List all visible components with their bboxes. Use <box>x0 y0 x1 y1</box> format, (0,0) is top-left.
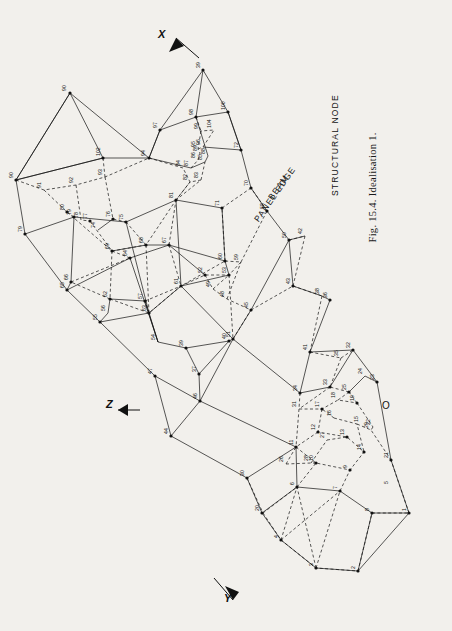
svg-text:15: 15 <box>353 416 359 422</box>
svg-text:60: 60 <box>217 253 223 259</box>
svg-text:19: 19 <box>349 395 355 401</box>
svg-text:80: 80 <box>59 204 65 210</box>
svg-text:38: 38 <box>314 288 320 294</box>
svg-text:48: 48 <box>219 291 225 297</box>
svg-text:102: 102 <box>95 147 101 156</box>
svg-text:1: 1 <box>401 508 407 511</box>
svg-text:104: 104 <box>206 119 212 128</box>
svg-text:4: 4 <box>273 535 279 538</box>
svg-text:93: 93 <box>97 169 103 175</box>
svg-text:55: 55 <box>92 314 98 320</box>
svg-text:39: 39 <box>178 340 184 346</box>
svg-text:78: 78 <box>73 212 79 218</box>
svg-text:36: 36 <box>322 292 328 298</box>
svg-text:42: 42 <box>297 228 303 234</box>
svg-text:33: 33 <box>322 379 328 385</box>
svg-text:87: 87 <box>183 160 189 166</box>
svg-text:70: 70 <box>243 180 249 186</box>
svg-text:57: 57 <box>137 293 143 299</box>
svg-text:62: 62 <box>102 291 108 297</box>
svg-text:68: 68 <box>138 237 144 243</box>
svg-text:81: 81 <box>168 192 174 198</box>
svg-text:100: 100 <box>220 101 226 110</box>
node-number-labels: 90 90 102 94 39 100 98 97 72 79 79 75 81… <box>8 62 407 569</box>
svg-text:18: 18 <box>330 392 336 398</box>
svg-text:91: 91 <box>36 182 42 188</box>
axis-arrows <box>118 38 239 600</box>
svg-text:99: 99 <box>193 123 199 129</box>
svg-text:9: 9 <box>342 465 348 468</box>
svg-text:20: 20 <box>254 505 260 511</box>
svg-text:64: 64 <box>122 250 128 256</box>
svg-text:43: 43 <box>285 278 291 284</box>
svg-text:74: 74 <box>90 222 96 228</box>
svg-text:37: 37 <box>191 366 197 372</box>
svg-text:30: 30 <box>239 470 245 476</box>
svg-text:6: 6 <box>289 482 295 485</box>
svg-text:83: 83 <box>193 172 199 178</box>
svg-text:13: 13 <box>339 429 345 435</box>
svg-text:79: 79 <box>66 209 72 215</box>
svg-text:31: 31 <box>291 401 297 407</box>
svg-text:11: 11 <box>288 440 294 445</box>
svg-text:25: 25 <box>341 384 347 390</box>
svg-text:89: 89 <box>192 145 198 151</box>
solid-members <box>16 70 409 571</box>
figure-caption-text: Fig. 15.4. Idealisation 1. <box>367 132 378 242</box>
svg-text:12: 12 <box>310 424 316 430</box>
axis-label-z: Z <box>106 398 113 410</box>
svg-text:76: 76 <box>105 211 111 217</box>
svg-text:66: 66 <box>63 274 69 280</box>
svg-text:34: 34 <box>292 385 298 391</box>
svg-text:44: 44 <box>163 428 169 434</box>
svg-text:21: 21 <box>383 452 389 458</box>
svg-text:59: 59 <box>233 254 239 260</box>
svg-text:90: 90 <box>8 172 14 178</box>
svg-text:52: 52 <box>197 267 203 273</box>
svg-text:40: 40 <box>221 333 227 339</box>
svg-text:50: 50 <box>281 232 287 238</box>
svg-text:63: 63 <box>141 305 147 311</box>
idealisation-diagram: 90 90 102 94 39 100 98 97 72 79 79 75 81… <box>0 0 452 631</box>
svg-text:56: 56 <box>100 305 106 311</box>
svg-text:8: 8 <box>364 508 370 511</box>
figure-caption: Fig. 15.4. Idealisation 1. <box>366 227 379 243</box>
svg-text:53: 53 <box>221 267 227 273</box>
svg-text:72: 72 <box>233 142 239 148</box>
svg-text:86: 86 <box>190 152 196 158</box>
svg-text:75: 75 <box>118 214 124 220</box>
svg-text:17: 17 <box>314 401 320 407</box>
svg-text:61: 61 <box>173 278 179 284</box>
svg-text:49: 49 <box>205 281 211 287</box>
svg-text:54: 54 <box>150 334 156 340</box>
svg-text:69: 69 <box>104 243 110 249</box>
svg-text:67: 67 <box>161 237 167 243</box>
axis-x-text: X <box>158 28 165 40</box>
svg-text:7: 7 <box>332 486 338 489</box>
svg-text:88: 88 <box>200 148 206 154</box>
axis-y-text: Y <box>224 592 231 604</box>
svg-text:82: 82 <box>182 174 188 180</box>
svg-text:28: 28 <box>303 455 309 461</box>
svg-text:46: 46 <box>192 393 198 399</box>
svg-text:32: 32 <box>345 342 351 348</box>
svg-text:23: 23 <box>369 374 375 380</box>
svg-text:27: 27 <box>319 432 325 438</box>
svg-text:47: 47 <box>147 368 153 374</box>
svg-text:14: 14 <box>356 444 362 450</box>
figure-page: 90 90 102 94 39 100 98 97 72 79 79 75 81… <box>0 0 452 631</box>
svg-text:79: 79 <box>17 226 23 232</box>
svg-text:90: 90 <box>61 85 67 91</box>
svg-text:97: 97 <box>152 122 158 128</box>
legend-structural-node: STRUCTURAL NODE <box>330 94 340 196</box>
svg-text:24: 24 <box>357 368 363 374</box>
svg-text:77: 77 <box>82 213 88 219</box>
svg-text:26: 26 <box>278 456 284 462</box>
svg-text:35: 35 <box>333 350 339 356</box>
structural-node-dots <box>14 68 410 572</box>
svg-text:65: 65 <box>59 282 65 288</box>
svg-text:39: 39 <box>195 62 201 68</box>
svg-text:94: 94 <box>140 150 146 156</box>
svg-text:71: 71 <box>214 200 220 206</box>
svg-text:45: 45 <box>243 302 249 308</box>
